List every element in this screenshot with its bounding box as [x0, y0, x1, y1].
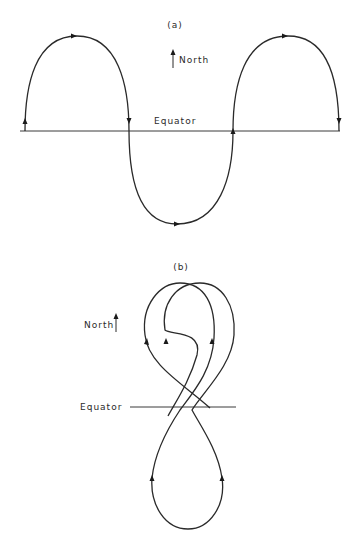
- panel-b: (b) North Equator: [80, 262, 236, 529]
- direction-arrow-icon: [71, 34, 77, 39]
- north-label: North: [84, 320, 114, 330]
- direction-arrow-icon: [23, 118, 28, 124]
- direction-arrow-icon: [220, 475, 225, 481]
- equator-label: Equator: [80, 402, 122, 412]
- diagram-canvas: (a) North Equator (b) North Equator: [0, 0, 362, 547]
- direction-arrow-icon: [337, 118, 342, 124]
- panel-a: (a) North Equator: [20, 20, 342, 227]
- trajectory-loop-left: [144, 283, 214, 478]
- direction-arrow-icon: [282, 34, 288, 39]
- direction-arrow-icon: [150, 475, 155, 481]
- direction-arrow-icon: [144, 338, 149, 345]
- direction-arrow-icon: [164, 338, 169, 344]
- north-arrow-icon: [171, 49, 176, 68]
- north-arrow-icon: [114, 313, 119, 332]
- trajectory-loop-bottom: [152, 478, 223, 529]
- panel-a-label: (a): [167, 20, 183, 30]
- north-label: North: [179, 55, 209, 65]
- direction-arrow-icon: [174, 222, 180, 227]
- direction-arrow-icon: [127, 118, 132, 124]
- panel-b-label: (b): [173, 262, 189, 272]
- trajectory-loop-right: [164, 283, 234, 478]
- equator-label: Equator: [154, 116, 196, 126]
